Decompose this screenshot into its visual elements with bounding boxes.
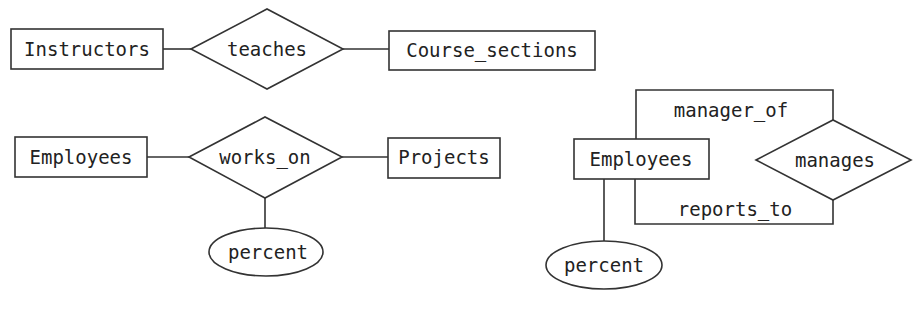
entity-employees: Employees (15, 137, 147, 177)
entity-course-sections: Course_sections (389, 31, 595, 70)
diagram-manages: Employees manages manager_of reports_to … (546, 90, 911, 289)
attribute-percent: percent (209, 228, 323, 276)
svg-text:Projects: Projects (398, 146, 490, 168)
diagram-works-on: Employees works_on Projects percent (15, 117, 500, 276)
svg-text:manages: manages (795, 149, 875, 171)
role-manager-of: manager_of (674, 99, 788, 122)
svg-text:works_on: works_on (219, 146, 311, 169)
role-reports-to: reports_to (678, 198, 792, 221)
relationship-teaches: teaches (191, 9, 343, 89)
entity-projects: Projects (388, 138, 500, 178)
svg-text:Course_sections: Course_sections (406, 39, 578, 62)
attribute-percent-self: percent (546, 241, 662, 289)
relationship-works-on: works_on (189, 117, 342, 198)
svg-text:percent: percent (228, 241, 308, 263)
entity-instructors: Instructors (11, 29, 163, 69)
svg-text:percent: percent (564, 254, 644, 276)
relationship-manages: manages (756, 120, 911, 200)
svg-text:Employees: Employees (30, 146, 133, 168)
diagram-teaches: Instructors teaches Course_sections (11, 9, 595, 89)
svg-text:teaches: teaches (227, 38, 307, 60)
svg-text:Instructors: Instructors (24, 38, 150, 60)
entity-employees-self: Employees (574, 139, 709, 179)
er-diagrams-canvas: Instructors teaches Course_sections Empl… (0, 0, 917, 313)
svg-text:Employees: Employees (590, 148, 693, 170)
